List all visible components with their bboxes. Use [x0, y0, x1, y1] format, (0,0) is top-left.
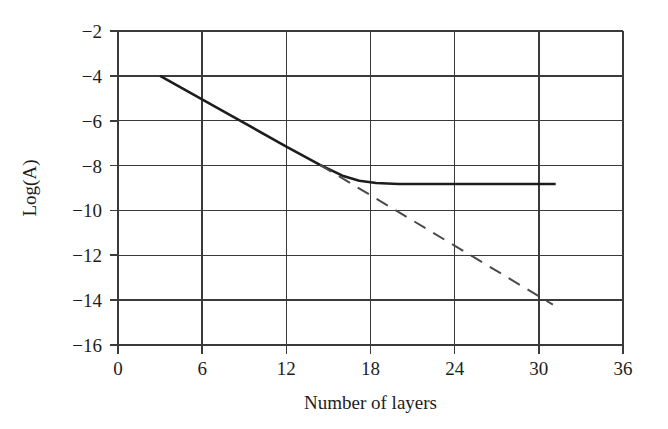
x-tick-label: 18: [361, 358, 380, 379]
figure-container: −16−14−12−10−8−6−4−2 061218243036 Log(A)…: [0, 0, 668, 429]
y-axis-ticks: [110, 31, 118, 345]
y-tick-label: −6: [82, 111, 102, 132]
x-tick-label: 36: [614, 358, 633, 379]
vertical-gridlines: [118, 31, 623, 345]
x-axis-tick-labels: 061218243036: [113, 358, 632, 379]
x-tick-label: 6: [197, 358, 207, 379]
y-axis-title: Log(A): [19, 160, 41, 217]
y-tick-label: −10: [72, 200, 102, 221]
x-axis-title: Number of layers: [304, 392, 437, 413]
x-tick-label: 0: [113, 358, 123, 379]
series-line-extrapolated: [320, 165, 553, 305]
data-series-layer: [160, 76, 556, 305]
y-tick-label: −12: [72, 245, 102, 266]
y-axis-tick-labels: −16−14−12−10−8−6−4−2: [72, 21, 102, 356]
chart-canvas: −16−14−12−10−8−6−4−2 061218243036 Log(A)…: [0, 0, 668, 429]
x-tick-label: 30: [529, 358, 548, 379]
series-line-measured: [160, 76, 556, 184]
y-tick-label: −16: [72, 335, 102, 356]
y-tick-label: −2: [82, 21, 102, 42]
x-tick-label: 24: [445, 358, 465, 379]
y-tick-label: −14: [72, 290, 102, 311]
y-tick-label: −4: [82, 66, 103, 87]
x-tick-label: 12: [277, 358, 296, 379]
x-axis-ticks: [118, 345, 623, 354]
y-tick-label: −8: [82, 156, 102, 177]
